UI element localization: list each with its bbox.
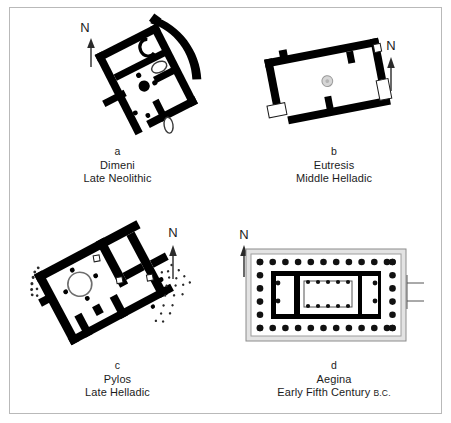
caption-eutresis: b Eutresis Middle Helladic [226, 145, 442, 186]
caption-site-d: Aegina [226, 373, 442, 387]
caption-letter-a: a [9, 145, 226, 159]
aegina-temple-plan [244, 245, 426, 349]
caption-site-a: Dimeni [9, 159, 226, 173]
caption-site-c: Pylos [9, 373, 226, 387]
caption-dimeni: a Dimeni Late Neolithic [9, 145, 226, 186]
plate-canvas: N [0, 0, 451, 423]
pylos-hearth [64, 268, 96, 300]
caption-period-d: Early Fifth Century B.C. [226, 386, 442, 401]
caption-letter-d: d [226, 359, 442, 373]
panel-dimeni: N [9, 7, 226, 211]
caption-letter-b: b [226, 145, 442, 159]
caption-period-c: Late Helladic [9, 386, 226, 400]
dimeni-hearth [137, 78, 152, 93]
caption-aegina: d Aegina Early Fifth Century B.C. [226, 359, 442, 401]
temple-east-markers [407, 275, 424, 309]
eutresis-plan [248, 33, 398, 138]
caption-period-main-d: Early Fifth Century [277, 386, 373, 398]
caption-letter-c: c [9, 359, 226, 373]
panel-pylos: N [9, 211, 226, 414]
caption-site-b: Eutresis [226, 159, 442, 173]
dimeni-plan [97, 15, 209, 145]
caption-period-suffix-d: B.C. [373, 388, 390, 398]
panel-aegina: N [226, 211, 442, 414]
caption-pylos: c Pylos Late Helladic [9, 359, 226, 400]
caption-period-a: Late Neolithic [9, 172, 226, 186]
pylos-plan [23, 223, 188, 363]
north-label-a: N [80, 20, 89, 35]
caption-period-b: Middle Helladic [226, 172, 442, 186]
dimeni-threshold [163, 117, 174, 134]
north-label-d: N [239, 227, 248, 242]
panel-eutresis: N [226, 7, 442, 211]
